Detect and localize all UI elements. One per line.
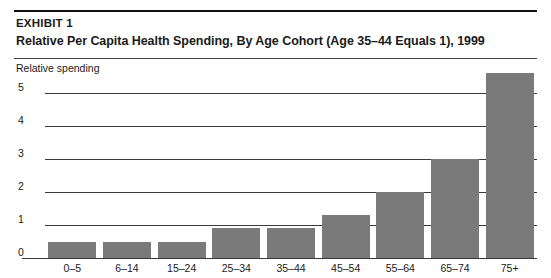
x-tick-label: 45–54 (318, 262, 373, 275)
y-tick-label: 0 (18, 247, 40, 258)
y-tick-label: 3 (18, 148, 40, 159)
x-tick-label: 6–14 (100, 262, 155, 275)
x-tick-label: 55–64 (373, 262, 428, 275)
bar (267, 228, 315, 258)
y-tick-label: 5 (18, 82, 40, 93)
x-tick-label: 35–44 (264, 262, 319, 275)
x-tick-label: 0–5 (45, 262, 100, 275)
y-tick-label: 4 (18, 115, 40, 126)
bars-group (45, 0, 537, 278)
bar (212, 228, 260, 258)
bar (48, 242, 96, 259)
bar (376, 192, 424, 258)
bar (158, 242, 206, 259)
y-tick-label: 1 (18, 214, 40, 225)
x-axis-labels: 0–56–1415–2425–3435–4445–5455–6465–7475+ (45, 262, 537, 276)
bar (322, 215, 370, 258)
exhibit-figure: EXHIBIT 1 Relative Per Capita Health Spe… (0, 0, 551, 278)
bar-chart-plot: 012345 0–56–1415–2425–3435–4445–5455–646… (0, 0, 551, 278)
x-tick-label: 15–24 (154, 262, 209, 275)
x-tick-label: 25–34 (209, 262, 264, 275)
x-tick-label: 75+ (482, 262, 537, 275)
bar (103, 242, 151, 259)
x-tick-label: 65–74 (428, 262, 483, 275)
bar (486, 73, 534, 258)
y-tick-label: 2 (18, 181, 40, 192)
bar (431, 159, 479, 258)
